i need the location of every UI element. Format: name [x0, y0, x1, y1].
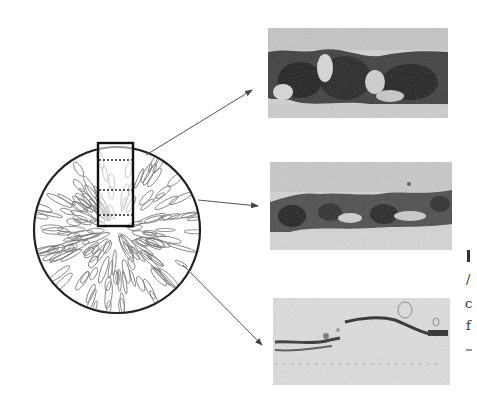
cell-ellipse	[60, 207, 75, 216]
cell-ellipse	[155, 229, 175, 232]
figure: / c f	[0, 0, 477, 415]
cell-ellipse	[117, 234, 136, 263]
cell-ellipse	[128, 269, 136, 287]
cell-ellipse	[142, 278, 158, 300]
cell-ellipse	[35, 213, 49, 220]
sample-box	[98, 143, 133, 226]
cell-ellipse	[72, 161, 86, 178]
svg-text:/: /	[466, 272, 471, 287]
cell-ellipse	[175, 259, 188, 268]
cell-ellipse	[147, 148, 162, 172]
arrow-to-middle	[198, 200, 258, 206]
cell-ellipse	[133, 168, 145, 189]
diagram-canvas: / c f	[0, 0, 477, 415]
cell-ellipse	[168, 190, 193, 206]
cell-ellipse	[74, 270, 92, 292]
arrow-to-top	[146, 90, 252, 155]
arrow-to-bottom	[183, 265, 262, 345]
svg-text:c: c	[465, 296, 472, 311]
cell-ellipse	[169, 211, 198, 221]
cell-ellipse	[181, 212, 198, 219]
photo-bottom	[273, 298, 450, 385]
cell-ellipse	[126, 257, 136, 271]
cell-ellipse	[138, 189, 155, 207]
cropped-caption: / c f	[465, 250, 472, 350]
cell-ellipse	[88, 267, 99, 281]
cell-ellipse	[29, 201, 53, 214]
photo-top	[268, 28, 448, 118]
cell-ellipse	[187, 216, 204, 222]
cell-ellipse	[139, 162, 153, 183]
cell-ellipse	[167, 242, 197, 253]
cell-ellipse	[154, 194, 180, 212]
cell-ellipse	[135, 275, 147, 292]
cell-ellipse	[85, 283, 97, 304]
svg-text:f: f	[466, 318, 472, 333]
photo-middle	[270, 162, 452, 250]
cell-ellipse	[184, 230, 207, 235]
cross-section	[28, 143, 208, 315]
cell-ellipse	[146, 253, 164, 268]
